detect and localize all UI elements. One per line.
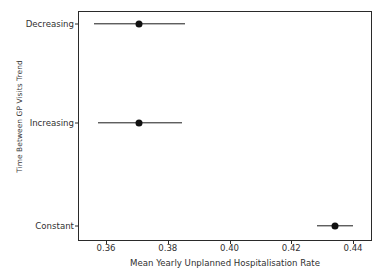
chart-figure: Time Between GP Visits Trend Mean Yearly… (0, 0, 386, 275)
y-tick-label-constant: Constant (35, 221, 74, 231)
y-tick-label-increasing: Increasing (30, 118, 74, 128)
x-tick-label: 0.42 (282, 243, 301, 253)
plot-area (78, 11, 372, 241)
x-axis-title: Mean Yearly Unplanned Hospitalisation Ra… (78, 258, 372, 268)
x-tick-label: 0.38 (158, 243, 177, 253)
y-axis-title: Time Between GP Visits Trend (15, 2, 24, 232)
x-tick-label: 0.44 (343, 243, 362, 253)
y-tick-mark (75, 226, 78, 227)
data-point (135, 21, 142, 28)
x-tick-label: 0.40 (220, 243, 239, 253)
data-point (331, 223, 338, 230)
chart-title (78, 0, 372, 4)
y-tick-mark (75, 24, 78, 25)
y-tick-label-decreasing: Decreasing (26, 19, 74, 29)
x-tick-label: 0.36 (96, 243, 115, 253)
data-point (136, 120, 143, 127)
y-tick-mark (75, 123, 78, 124)
